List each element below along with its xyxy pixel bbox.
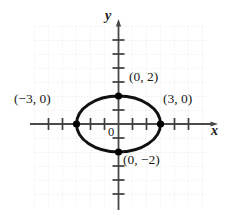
y-axis-label: y [105, 9, 111, 23]
origin-label: 0 [108, 126, 114, 139]
label-right-vertex: (3, 0) [163, 92, 192, 106]
coordinate-plane [0, 0, 232, 215]
point-top-vertex [115, 92, 122, 99]
label-top-vertex: (0, 2) [129, 70, 158, 84]
point-bottom-vertex [115, 148, 122, 155]
ellipse-figure: (−3, 0) (3, 0) (0, 2) (0, −2) y x 0 [0, 0, 232, 215]
x-axis-label: x [211, 124, 218, 138]
label-left-vertex: (−3, 0) [14, 92, 51, 106]
point-right-vertex [157, 120, 164, 127]
label-bottom-vertex: (0, −2) [123, 153, 160, 167]
point-left-vertex [73, 120, 80, 127]
